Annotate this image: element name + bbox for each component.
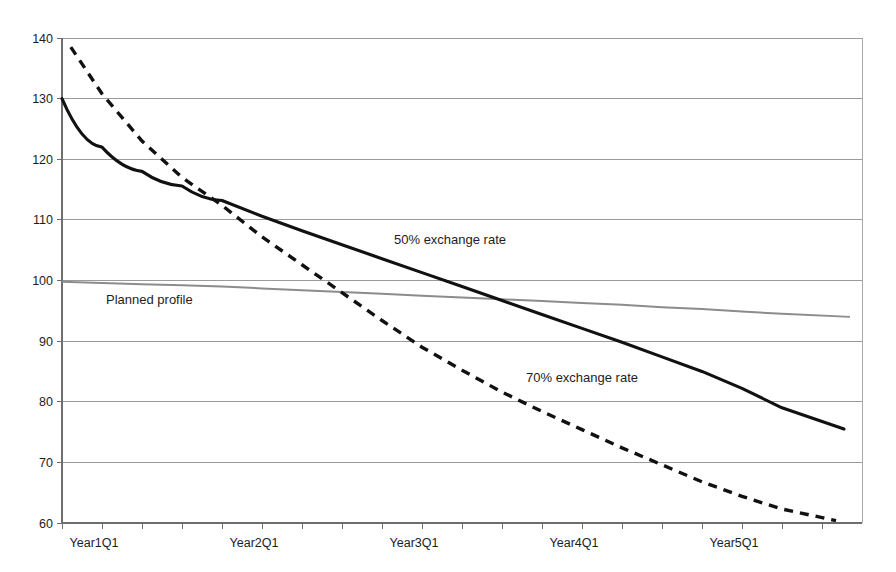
y-axis-label: 70 (39, 456, 53, 470)
x-axis-label: Year2Q1 (230, 536, 279, 550)
y-axis-label: 120 (32, 153, 53, 167)
y-axis-label: 100 (32, 274, 53, 288)
x-axis-tick-marks (62, 523, 822, 529)
grid-lines (62, 38, 862, 523)
chart-container: 60708090100110120130140 Year1Q1Year2Q1Ye… (0, 0, 896, 572)
y-axis-label: 80 (39, 395, 53, 409)
y-axis-label: 130 (32, 92, 53, 106)
x-axis-label: Year1Q1 (70, 536, 119, 550)
series-annotation-3: 70% exchange rate (526, 370, 638, 385)
y-axis-tick-marks (57, 38, 62, 523)
series-annotation-1: Planned profile (106, 292, 193, 307)
x-axis-label: Year5Q1 (710, 536, 759, 550)
series-annotation-2: 50% exchange rate (394, 232, 506, 247)
data-series (62, 47, 850, 520)
x-axis-tick-labels: Year1Q1Year2Q1Year3Q1Year4Q1Year5Q1 (70, 536, 759, 550)
y-axis-label: 140 (32, 32, 53, 46)
y-axis-label: 110 (33, 213, 53, 227)
y-axis-label: 60 (39, 517, 53, 531)
series-line-2 (62, 99, 844, 429)
y-axis-label: 90 (39, 335, 53, 349)
y-axis-tick-labels: 60708090100110120130140 (32, 32, 53, 531)
x-axis-label: Year3Q1 (390, 536, 439, 550)
line-chart: 60708090100110120130140 Year1Q1Year2Q1Ye… (0, 0, 896, 572)
x-axis-label: Year4Q1 (550, 536, 599, 550)
